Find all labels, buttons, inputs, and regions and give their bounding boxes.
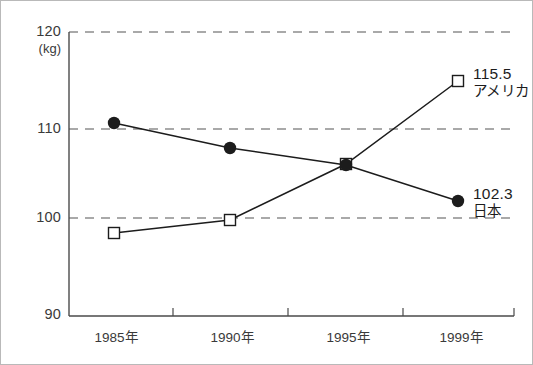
japan-end-value: 102.3 xyxy=(473,185,513,203)
y-tick-label-100: 100 xyxy=(11,209,61,225)
series-label-japan: 102.3 日本 xyxy=(473,185,513,220)
x-tick-label-1990: 1990年 xyxy=(210,326,253,346)
japan-marker-1995 xyxy=(340,159,352,171)
y-tick-label-90: 90 xyxy=(11,306,61,322)
america-polyline xyxy=(114,81,458,233)
america-series-name: アメリカ xyxy=(473,83,530,100)
series-line-america xyxy=(109,76,464,239)
x-axis-ticks xyxy=(173,308,514,316)
japan-marker-1985 xyxy=(108,117,120,129)
series-label-america: 115.5 アメリカ xyxy=(473,65,530,100)
japan-marker-1990 xyxy=(224,142,236,154)
japan-marker-1999 xyxy=(452,195,464,207)
japan-series-name: 日本 xyxy=(473,203,513,220)
x-tick-label-1999: 1999年 xyxy=(439,326,482,346)
x-tick-label-1995: 1995年 xyxy=(326,326,369,346)
japan-polyline xyxy=(114,123,458,201)
y-tick-label-110: 110 xyxy=(11,120,61,136)
x-tick-label-1985: 1985年 xyxy=(94,326,137,346)
chart-figure: 120 (kg) 110 100 90 1985年 1990年 1995年 19… xyxy=(0,0,533,365)
y-axis-unit-label: (kg) xyxy=(11,41,61,56)
america-marker-1990 xyxy=(225,215,236,226)
line-chart-plot xyxy=(1,1,533,365)
y-tick-label-120: 120 xyxy=(11,23,61,39)
axis-lines xyxy=(69,32,514,316)
america-end-value: 115.5 xyxy=(473,65,530,83)
america-marker-1999 xyxy=(453,76,464,87)
america-marker-1985 xyxy=(109,228,120,239)
